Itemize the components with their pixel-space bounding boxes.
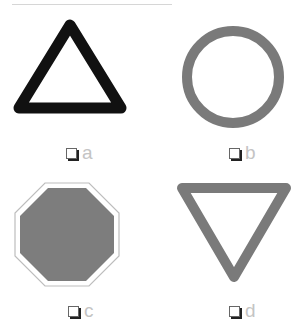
option-label: c xyxy=(84,303,94,319)
checkbox-icon[interactable] xyxy=(229,306,240,317)
option-label: a xyxy=(82,145,93,161)
option-a[interactable]: a xyxy=(66,145,93,161)
checkbox-icon[interactable] xyxy=(68,306,79,317)
triangle-up-shape xyxy=(19,25,121,108)
checkbox-icon[interactable] xyxy=(229,148,240,159)
option-d[interactable]: d xyxy=(229,303,256,319)
circle-shape xyxy=(187,31,279,123)
triangle-down-shape xyxy=(182,188,286,277)
option-label: b xyxy=(245,145,256,161)
option-b[interactable]: b xyxy=(229,145,256,161)
checkbox-icon[interactable] xyxy=(66,148,77,159)
option-label: d xyxy=(245,303,256,319)
option-c[interactable]: c xyxy=(68,303,94,319)
octagon-shape xyxy=(20,188,114,281)
